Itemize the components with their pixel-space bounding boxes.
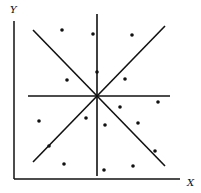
data-point [102, 168, 106, 172]
data-point [131, 164, 135, 168]
data-point [123, 77, 127, 81]
y-axis-label: Y [10, 4, 18, 15]
data-point [91, 32, 95, 36]
data-point [103, 123, 107, 127]
data-point [136, 121, 140, 125]
data-point [130, 33, 134, 37]
data-point [47, 144, 51, 148]
line-diagonal-sw-ne [33, 26, 165, 162]
reference-lines [28, 14, 170, 176]
scatter-diagram: Y X [0, 0, 201, 193]
x-axis-label: X [186, 177, 195, 188]
data-point [84, 116, 88, 120]
data-point [37, 119, 41, 123]
data-point [62, 162, 66, 166]
data-point [95, 70, 99, 74]
data-point [156, 100, 160, 104]
line-diagonal-nw-se [33, 30, 165, 166]
data-point [153, 149, 157, 153]
data-point [60, 28, 64, 32]
data-point [118, 105, 122, 109]
data-point [65, 78, 69, 82]
